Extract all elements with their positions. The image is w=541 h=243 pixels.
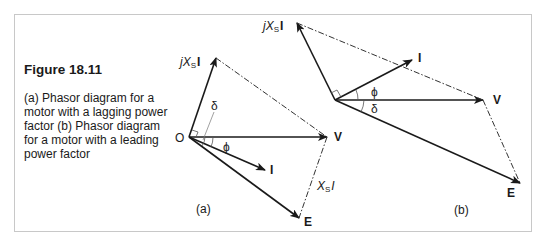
e-label-a: E bbox=[304, 215, 312, 229]
phi-label-b: ϕ bbox=[371, 85, 378, 99]
i-label-a: I bbox=[270, 163, 273, 177]
v-label-b: V bbox=[493, 93, 501, 107]
phi-arc-b bbox=[356, 90, 358, 100]
diagram-a: O V I E δ ϕ jXSI XSI (a) bbox=[175, 55, 342, 229]
construction-line-a-right bbox=[299, 137, 327, 218]
panel-label-b: (b) bbox=[454, 203, 469, 217]
phi-arc-a bbox=[211, 137, 213, 147]
delta-label-b: δ bbox=[371, 102, 378, 116]
diagram-b: V I E ϕ δ jXSI (b) bbox=[250, 19, 520, 217]
delta-arc-b bbox=[361, 100, 364, 112]
construction-line-a-top bbox=[216, 58, 327, 137]
xsi-label-a: XSI bbox=[316, 179, 335, 194]
phasor-jxsi-b bbox=[297, 23, 335, 100]
i-label-b: I bbox=[418, 51, 421, 65]
v-label-a: V bbox=[334, 130, 342, 144]
phasor-e-b bbox=[335, 100, 520, 183]
phi-label-a: ϕ bbox=[223, 140, 230, 154]
delta-label-a: δ bbox=[211, 99, 218, 113]
origin-label-a: O bbox=[175, 131, 184, 145]
phasor-diagrams: O V I E δ ϕ jXSI XSI (a) V I E ϕ δ jXSI … bbox=[0, 0, 541, 243]
construction-line-b-right bbox=[483, 100, 520, 183]
jxsi-label-b: jXSI bbox=[261, 19, 283, 34]
construction-line-b-top bbox=[297, 23, 483, 100]
delta-leader-a bbox=[203, 112, 214, 140]
jxsi-label-a: jXSI bbox=[178, 55, 200, 70]
panel-label-a: (a) bbox=[196, 202, 211, 216]
e-label-b: E bbox=[507, 186, 515, 200]
right-angle-mark-a bbox=[192, 130, 198, 137]
